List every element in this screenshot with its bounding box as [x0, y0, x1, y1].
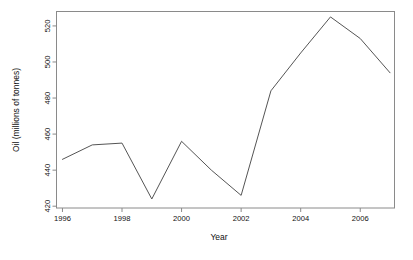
- y-tick-label: 460: [44, 128, 53, 141]
- line-chart-figure: 420440460480500520 199619982000200220042…: [0, 0, 413, 260]
- x-tick-label: 2000: [173, 214, 190, 223]
- y-tick-label: 480: [44, 92, 53, 105]
- x-tick-label: 2006: [352, 214, 369, 223]
- x-tick-label: 1996: [54, 214, 71, 223]
- x-tick-label: 2002: [233, 214, 250, 223]
- x-tick-label: 2004: [292, 214, 309, 223]
- y-axis-title: Oil (millions of tonnes): [11, 68, 21, 152]
- chart-canvas: 420440460480500520 199619982000200220042…: [0, 0, 413, 260]
- y-tick-label: 520: [44, 20, 53, 33]
- y-tick-label: 440: [44, 164, 53, 177]
- y-tick-label: 420: [44, 200, 53, 213]
- x-axis-title: Year: [210, 232, 227, 242]
- x-tick-label: 1998: [114, 214, 131, 223]
- y-tick-label: 500: [44, 56, 53, 69]
